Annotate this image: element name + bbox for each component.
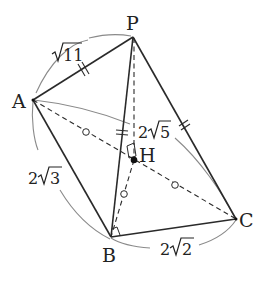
edge-bc bbox=[111, 219, 236, 237]
point-h bbox=[131, 157, 138, 164]
length-label-ac: 2 5 bbox=[138, 121, 171, 142]
point-a bbox=[32, 99, 35, 102]
circle-hc bbox=[172, 182, 179, 189]
radicand-11: 11 bbox=[63, 46, 83, 65]
right-angle-b bbox=[112, 227, 120, 235]
length-label-bc: 2 2 bbox=[160, 238, 194, 259]
arc-ab-lower bbox=[60, 190, 110, 239]
coef-3: 2 bbox=[28, 169, 38, 188]
circle-hb bbox=[121, 191, 128, 198]
radicand-3: 3 bbox=[50, 169, 60, 188]
label-c: C bbox=[239, 209, 254, 231]
radicand-2: 2 bbox=[182, 240, 192, 259]
label-a: A bbox=[11, 90, 26, 112]
arc-bc-left bbox=[111, 238, 150, 248]
arc-ac-upper bbox=[34, 100, 130, 124]
coef-5: 2 bbox=[138, 123, 148, 142]
length-label-ab: 2 3 bbox=[28, 167, 62, 188]
tetrahedron-diagram: P A B C H 11 2 5 2 3 2 2 bbox=[0, 0, 272, 285]
length-label-pa: 11 bbox=[52, 43, 83, 65]
circle-ah bbox=[83, 129, 90, 136]
hidden-edges bbox=[33, 38, 236, 237]
radicand-5: 5 bbox=[160, 123, 170, 142]
label-b: B bbox=[102, 244, 116, 266]
arc-ac-lower bbox=[175, 138, 235, 218]
point-c bbox=[235, 218, 238, 221]
edge-ab bbox=[33, 100, 111, 237]
right-angle-h bbox=[127, 143, 136, 158]
label-p: P bbox=[126, 12, 139, 34]
edge-pb bbox=[111, 37, 133, 237]
coef-2: 2 bbox=[160, 240, 170, 259]
arc-pa-right bbox=[89, 35, 131, 38]
label-h: H bbox=[139, 144, 156, 166]
